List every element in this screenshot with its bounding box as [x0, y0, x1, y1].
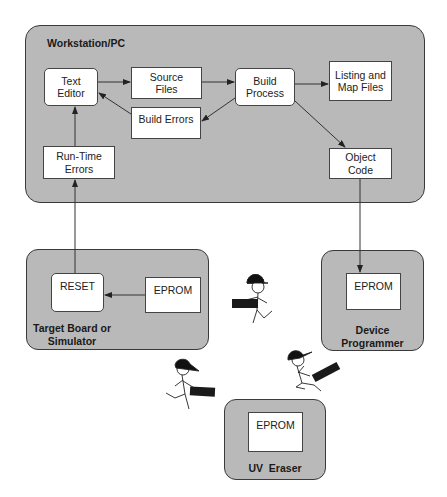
- edge-errors-to-editor: [99, 93, 131, 114]
- figure-caption-fragment: [42, 484, 45, 494]
- carried-eprom-3-icon: [312, 362, 340, 382]
- courier-figure-1-icon: [238, 275, 272, 324]
- courier-figure-2-icon: [166, 359, 199, 409]
- diagram-connectors: [0, 0, 447, 497]
- edge-build-to-object: [295, 101, 345, 147]
- courier-figure-3-icon: [288, 351, 321, 391]
- carried-eprom-1-icon: [232, 299, 258, 308]
- edge-build-to-errors: [202, 98, 235, 121]
- carried-eprom-2-icon: [190, 386, 215, 396]
